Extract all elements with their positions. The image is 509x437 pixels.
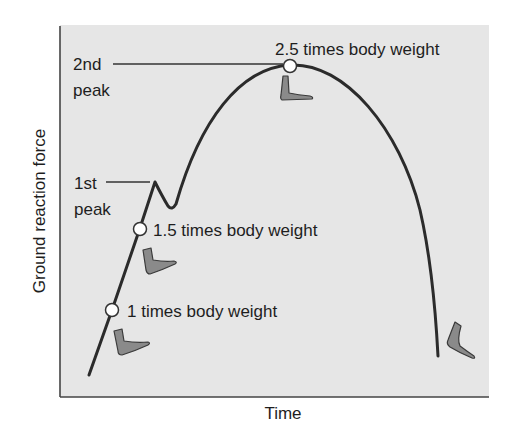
label-1-bw: 1 times body weight	[127, 302, 278, 321]
marker-1-bw	[106, 304, 119, 317]
marker-1-5-bw	[134, 223, 147, 236]
y-axis-label: Ground reaction force	[30, 129, 49, 293]
second-peak-label-line2: peak	[73, 81, 110, 100]
label-1-5-bw: 1.5 times body weight	[153, 221, 318, 240]
marker-2-5-bw	[284, 60, 297, 73]
label-2-5-bw: 2.5 times body weight	[275, 40, 440, 59]
second-peak-label-line1: 2nd	[73, 55, 101, 74]
x-axis-label: Time	[264, 404, 301, 423]
first-peak-label-line2: peak	[74, 200, 111, 219]
ground-reaction-force-diagram: Ground reaction force Time 2nd peak 1st …	[0, 0, 509, 437]
first-peak-label-line1: 1st	[74, 174, 97, 193]
